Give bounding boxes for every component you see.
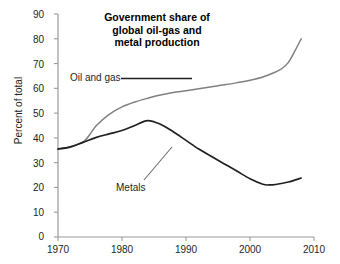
chart-container: Government share of global oil-gas and m… (0, 0, 340, 264)
series-line-metals (58, 121, 301, 185)
leader-line-metals (144, 147, 172, 180)
series-line-oil-and-gas (58, 39, 301, 149)
x-axis-ticks (58, 237, 314, 241)
plot-area (0, 0, 340, 264)
